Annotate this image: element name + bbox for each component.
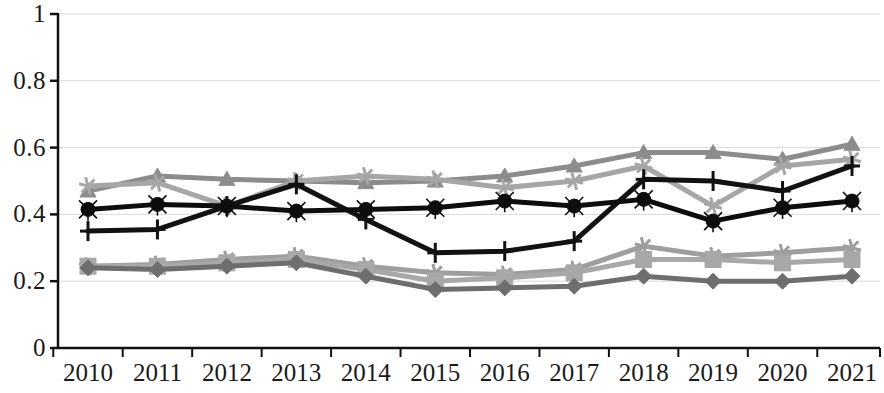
marker-circle-spike (300, 215, 305, 220)
marker-circle-spike (357, 200, 362, 205)
marker-circle-spike (509, 205, 514, 210)
marker-circle-spike (856, 192, 861, 197)
marker-circle-spike (161, 208, 166, 213)
marker-circle-spike (92, 200, 97, 205)
marker-circle-spike (161, 195, 166, 200)
y-axis-tick-label: 0.6 (13, 135, 46, 160)
x-axis-tick-label: 2010 (48, 360, 128, 385)
line-chart: 10.80.60.40.20 2010201120122013201420152… (0, 0, 884, 393)
y-axis-tick-label: 0.8 (13, 68, 46, 93)
marker-square (705, 251, 721, 267)
marker-circle-spike (300, 202, 305, 207)
x-axis-tick-label: 2016 (465, 360, 545, 385)
marker-circle-spike (565, 197, 570, 202)
marker-diamond (636, 268, 652, 284)
marker-circle-spike (370, 200, 375, 205)
y-axis-tick-label: 0.2 (13, 268, 46, 293)
y-axis-tick-label: 0 (33, 335, 46, 360)
x-axis-tick-label: 2021 (812, 360, 884, 385)
marker-circle-spike (148, 208, 153, 213)
marker-circle-spike (148, 195, 153, 200)
x-axis-tick-label: 2017 (534, 360, 614, 385)
x-axis-tick-label: 2013 (256, 360, 336, 385)
series-plus (80, 156, 860, 263)
marker-diamond (705, 273, 721, 289)
x-axis-tick-label: 2012 (187, 360, 267, 385)
x-axis-tick-label: 2011 (117, 360, 197, 385)
marker-circle-spike (496, 205, 501, 210)
marker-circle-spike (704, 225, 709, 230)
series-diamond-line (88, 263, 852, 290)
series-square-line (88, 259, 852, 281)
x-axis-tick-label: 2019 (673, 360, 753, 385)
marker-circle-spike (426, 199, 431, 204)
marker-circle-spike (843, 192, 848, 197)
marker-circle-spike (635, 190, 640, 195)
marker-circle-spike (287, 202, 292, 207)
x-axis-tick-label: 2018 (604, 360, 684, 385)
marker-circle-spike (578, 197, 583, 202)
series-circle-line (88, 199, 852, 221)
chart-plot-area (0, 0, 884, 393)
marker-square (636, 251, 652, 267)
marker-circle-spike (439, 199, 444, 204)
marker-square (844, 251, 860, 267)
x-axis-tick-label: 2014 (326, 360, 406, 385)
marker-circle-spike (648, 190, 653, 195)
marker-diamond (844, 268, 860, 284)
marker-circle-spike (774, 199, 779, 204)
x-axis-tick-label: 2015 (395, 360, 475, 385)
marker-circle-spike (717, 225, 722, 230)
marker-circle-spike (509, 192, 514, 197)
y-axis-tick-label: 0.4 (13, 201, 46, 226)
marker-circle-spike (635, 203, 640, 208)
marker-circle-spike (843, 205, 848, 210)
marker-circle-spike (856, 205, 861, 210)
marker-circle-spike (79, 200, 84, 205)
marker-square (775, 255, 791, 271)
marker-diamond (775, 273, 791, 289)
marker-circle-spike (787, 199, 792, 204)
x-axis-tick-label: 2020 (743, 360, 823, 385)
marker-circle-spike (287, 215, 292, 220)
y-axis-tick-label: 1 (33, 1, 46, 26)
